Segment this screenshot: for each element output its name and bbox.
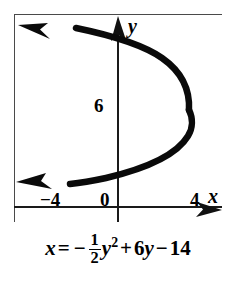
equation-caption: x=−12y2+6y−14 (0, 232, 236, 266)
equation-constant: 14 (170, 236, 191, 260)
x-axis-label: x (208, 186, 218, 206)
equation-minus-sign: − (72, 236, 88, 260)
equation-fraction: 12 (89, 232, 101, 266)
equation-equals: = (56, 236, 72, 260)
lower-arrowhead (16, 173, 52, 189)
y-tick-label-six: 6 (94, 96, 104, 115)
equation-minus-sign-2: − (154, 236, 170, 260)
parabola-path (76, 28, 189, 110)
x-tick-label-four: 4 (190, 190, 200, 209)
fraction-denominator: 2 (89, 250, 101, 267)
x-tick-label-neg4: −4 (40, 190, 60, 209)
equation-coefficient: 6 (134, 236, 145, 260)
equation-y-variable: y (102, 236, 111, 260)
x-tick-label-zero: 0 (100, 190, 110, 209)
y-axis-label: y (128, 16, 137, 36)
equation-plus-sign: + (118, 236, 134, 260)
graph-figure: −4 0 4 6 y x x=−12y2+6y−14 (0, 0, 236, 282)
equation-y-variable-2: y (145, 236, 154, 260)
parabola-path-lower (70, 110, 192, 184)
upper-arrowhead (18, 23, 50, 39)
plot-area: −4 0 4 6 y x (14, 14, 222, 222)
equation-lhs: x (45, 236, 56, 260)
